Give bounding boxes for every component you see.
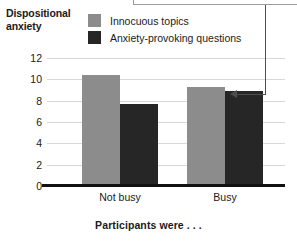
y-axis-title-line2: anxiety (6, 20, 96, 33)
bar-not-busy-series-0 (82, 75, 120, 186)
y-axis-tick-label: 8 (16, 96, 42, 106)
x-axis-title: Participants were . . . (0, 219, 297, 231)
legend-swatch-icon (88, 14, 101, 27)
plot-area (47, 58, 285, 186)
legend-item-innocuous-topics: Innocuous topics (88, 12, 293, 29)
bar-chart-figure: Dispositional anxiety Innocuous topics A… (0, 0, 297, 242)
annotation-callout-box (133, 0, 297, 5)
bar-busy-series-0 (187, 87, 225, 186)
y-axis-tick-label: 10 (16, 74, 42, 84)
legend-label: Innocuous topics (110, 15, 189, 27)
y-axis-tick-label: 0 (16, 181, 42, 191)
legend-item-anxiety-provoking-questions: Anxiety-provoking questions (88, 29, 293, 46)
y-axis-tick-label: 2 (16, 160, 42, 170)
x-axis-category-label: Not busy (75, 191, 165, 203)
legend-swatch-icon (88, 31, 101, 44)
bar-busy-series-1 (225, 91, 263, 186)
y-axis-tick-labels: 024681012 (12, 58, 42, 186)
annotation-arrow-icon (230, 90, 237, 98)
chart-legend: Innocuous topics Anxiety-provoking quest… (88, 12, 293, 46)
y-axis-tick-label: 6 (16, 117, 42, 127)
x-axis-category-label: Busy (180, 191, 270, 203)
x-axis-line (42, 184, 285, 187)
y-axis-tick-label: 12 (16, 53, 42, 63)
annotation-leader-line-vertical (265, 5, 266, 95)
y-axis-title-line1: Dispositional (6, 7, 96, 20)
bar-not-busy-series-1 (120, 104, 158, 186)
y-axis-title: Dispositional anxiety (6, 7, 96, 32)
legend-label: Anxiety-provoking questions (110, 32, 241, 44)
gridline (47, 58, 285, 59)
annotation-leader-line-horizontal (236, 94, 266, 95)
y-axis-tick-label: 4 (16, 138, 42, 148)
